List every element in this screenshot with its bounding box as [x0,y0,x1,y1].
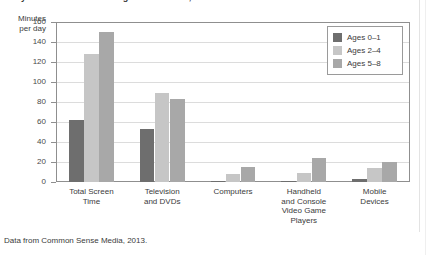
bar [226,174,241,182]
bar [367,168,382,182]
bar [241,167,256,182]
legend-item: Ages 0–1 [333,31,397,44]
page-edge [419,0,420,232]
bar [281,181,296,182]
y-axis-tick-label: 80 [0,98,46,106]
legend-swatch-icon [333,46,342,55]
y-axis-tick-label: 0 [0,178,46,186]
y-axis-tick-mark [51,162,56,163]
y-axis-tick-label: 140 [0,38,46,46]
y-axis-tick-label: 160 [0,18,46,26]
legend: Ages 0–1Ages 2–4Ages 5–8 [327,26,403,75]
bar [69,120,84,182]
y-axis-tick-mark [51,22,56,23]
bar-group [69,22,114,182]
y-axis-tick-label: 40 [0,138,46,146]
legend-label: Ages 5–8 [347,59,381,68]
x-axis-label-line: Video Game [262,206,345,216]
legend-swatch-icon [333,33,342,42]
bar-group [140,22,185,182]
y-axis-tick-mark [51,182,56,183]
bar [140,129,155,182]
bar [352,179,367,182]
x-axis-label-line: and DVDs [121,197,204,207]
x-axis-label-line: Players [262,216,345,226]
source-note: Data from Common Sense Media, 2013. [4,236,147,245]
y-axis-tick-mark [51,142,56,143]
x-axis-label: MobileDevices [333,187,416,206]
legend-item: Ages 5–8 [333,57,397,70]
bar-group [281,22,326,182]
legend-item: Ages 2–4 [333,44,397,57]
bar [211,181,226,182]
legend-swatch-icon [333,59,342,68]
y-axis-tick-label: 120 [0,58,46,66]
y-axis-tick-mark [51,102,56,103]
y-axis-tick-label: 20 [0,158,46,166]
y-axis-tick-label: 100 [0,78,46,86]
figure: Daily Screen Time for Young U.S. Childre… [0,0,429,255]
y-axis-tick-mark [51,122,56,123]
y-axis-tick-mark [51,82,56,83]
bar [99,32,114,182]
bar [382,162,397,182]
x-axis-label-line: Devices [333,197,416,207]
y-axis-tick-mark [51,42,56,43]
bar-group [211,22,256,182]
bar [297,173,312,182]
y-axis-tick-label: 60 [0,118,46,126]
y-axis-tick-mark [51,62,56,63]
chart-title: Daily Screen Time for Young U.S. Childre… [4,0,334,4]
bar [170,99,185,182]
bar [155,93,170,182]
page-edge-outer [425,0,426,255]
bar [312,158,327,182]
legend-label: Ages 0–1 [347,33,381,42]
bar [84,54,99,182]
legend-label: Ages 2–4 [347,46,381,55]
x-axis-label-line: Mobile [333,187,416,197]
